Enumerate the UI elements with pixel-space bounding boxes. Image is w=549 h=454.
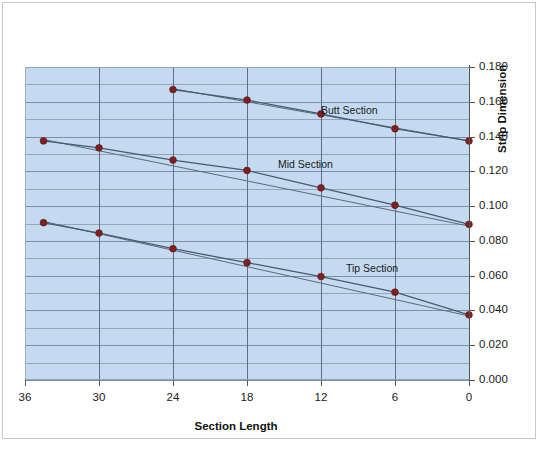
series-label-tip-section: Tip Section [346,262,398,274]
trendline [44,140,470,227]
data-point-marker [96,144,103,151]
x-axis-tick-label: 12 [306,392,336,404]
series-overlay [25,67,469,380]
y-axis-tick [469,345,475,346]
series-mid-section [40,138,472,228]
x-axis-tick [247,380,248,386]
y-axis-tick [469,241,475,242]
series-label-butt-section: Butt Section [321,104,378,116]
data-point-marker [170,157,177,164]
x-axis-tick [321,380,322,386]
y-axis-tick-label: 0.000 [479,374,508,386]
x-axis-tick-label: 0 [454,392,484,404]
y-axis-tick [469,102,475,103]
x-axis-tick-label: 24 [158,392,188,404]
data-point-marker [318,184,325,191]
trendline [44,221,470,316]
y-axis-tick-label: 0.120 [479,165,508,177]
x-axis-tick-label: 18 [232,392,262,404]
data-point-marker [40,138,47,145]
y-axis-tick [469,67,475,68]
x-axis-tick [99,380,100,386]
x-axis-tick [469,380,470,386]
data-point-marker [392,125,399,132]
y-axis-tick [469,310,475,311]
y-axis-tick-label: 0.080 [479,235,508,247]
y-axis-line [469,65,470,382]
x-axis-tick [395,380,396,386]
y-axis-tick [469,206,475,207]
series-tip-section [40,219,472,318]
chart-card: 0.0000.0200.0400.0600.0800.1000.1200.140… [2,2,536,439]
y-axis-tick [469,276,475,277]
data-point-marker [392,289,399,296]
x-axis-tick [173,380,174,386]
y-axis-tick-label: 0.100 [479,200,508,212]
data-point-marker [170,245,177,252]
y-axis-tick-label: 0.020 [479,339,508,351]
data-point-marker [244,97,251,104]
x-axis-title: Section Length [3,420,469,432]
x-axis-tick [25,380,26,386]
data-point-marker [40,219,47,226]
data-point-marker [170,86,177,93]
y-axis-tick [469,137,475,138]
y-axis-tick-label: 0.060 [479,270,508,282]
data-point-marker [244,259,251,266]
data-point-marker [244,167,251,174]
data-point-marker [392,202,399,209]
y-axis-tick-label: 0.040 [479,304,508,316]
x-axis-tick-label: 36 [10,392,40,404]
data-point-marker [318,273,325,280]
series-label-mid-section: Mid Section [278,158,333,170]
y-axis-tick [469,171,475,172]
y-axis-title: Strip Dimension [496,65,508,153]
x-axis-tick-label: 30 [84,392,114,404]
x-axis-tick-label: 6 [380,392,410,404]
data-point-marker [96,230,103,237]
